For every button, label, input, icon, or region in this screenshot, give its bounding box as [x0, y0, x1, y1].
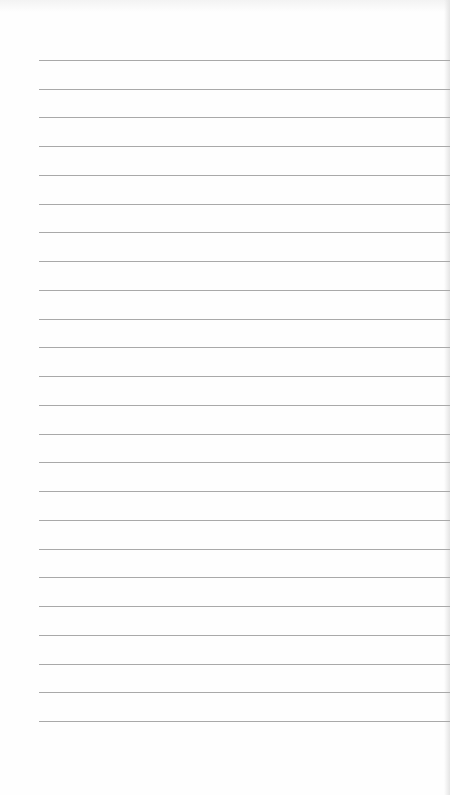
ruled-line [39, 60, 450, 61]
ruled-line [39, 577, 450, 578]
ruled-line [39, 261, 450, 262]
ruled-line [39, 175, 450, 176]
ruled-line [39, 232, 450, 233]
lined-paper [0, 0, 450, 795]
ruled-line [39, 347, 450, 348]
ruled-line [39, 376, 450, 377]
ruled-line [39, 692, 450, 693]
ruled-line [39, 117, 450, 118]
ruled-line [39, 549, 450, 550]
ruled-line [39, 146, 450, 147]
ruled-line [39, 89, 450, 90]
top-shadow [0, 0, 450, 12]
ruled-line [39, 491, 450, 492]
ruled-line [39, 319, 450, 320]
ruled-line [39, 204, 450, 205]
ruled-line [39, 606, 450, 607]
ruled-line [39, 462, 450, 463]
ruled-line [39, 405, 450, 406]
ruled-line [39, 635, 450, 636]
ruled-line [39, 520, 450, 521]
ruled-line [39, 721, 450, 722]
ruled-line [39, 290, 450, 291]
ruled-line [39, 664, 450, 665]
right-edge-shadow [444, 0, 450, 795]
ruled-line [39, 434, 450, 435]
